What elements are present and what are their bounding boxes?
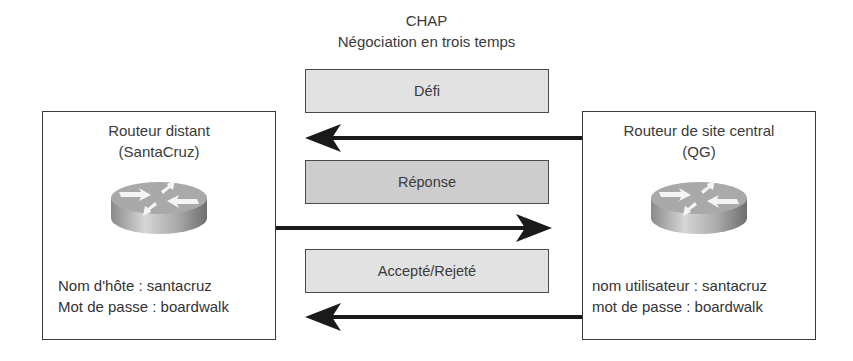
arrow-right-response: [275, 214, 552, 242]
remote-router-title: Routeur distant: [43, 120, 275, 141]
router-icon: [649, 176, 749, 240]
central-username-label: nom utilisateur : santacruz: [592, 275, 767, 296]
remote-router-name: Routeur distant (SantaCruz): [43, 120, 275, 162]
central-router-box: Routeur de site central (QG) nom utilisa…: [582, 111, 816, 340]
central-router-credentials: nom utilisateur : santacruz mot de passe…: [592, 275, 767, 317]
remote-password-label: Mot de passe : boardwalk: [58, 296, 229, 317]
router-icon: [109, 176, 209, 240]
central-password-label: mot de passe : boardwalk: [592, 296, 767, 317]
central-router-title: Routeur de site central: [583, 120, 815, 141]
central-router-name: Routeur de site central (QG): [583, 120, 815, 162]
arrow-left-accept: [305, 303, 583, 331]
remote-router-credentials: Nom d'hôte : santacruz Mot de passe : bo…: [58, 275, 229, 317]
central-router-hostname: (QG): [583, 141, 815, 162]
arrow-left-challenge: [305, 124, 583, 152]
remote-router-hostname: (SantaCruz): [43, 141, 275, 162]
remote-hostname-label: Nom d'hôte : santacruz: [58, 275, 229, 296]
remote-router-box: Routeur distant (SantaCruz) Nom d'hôte :…: [42, 111, 276, 340]
